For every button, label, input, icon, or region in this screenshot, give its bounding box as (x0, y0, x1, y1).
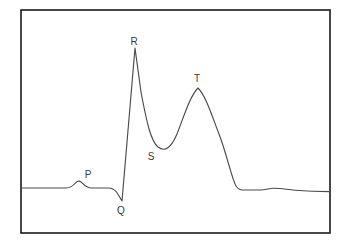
ecg-figure: P Q R S T (0, 0, 345, 249)
label-q: Q (117, 205, 125, 216)
figure-border (21, 10, 330, 233)
ecg-diagram: P Q R S T (0, 0, 345, 249)
label-p: P (85, 169, 92, 180)
label-t: T (194, 73, 200, 84)
label-r: R (130, 36, 137, 47)
label-s: S (148, 151, 155, 162)
